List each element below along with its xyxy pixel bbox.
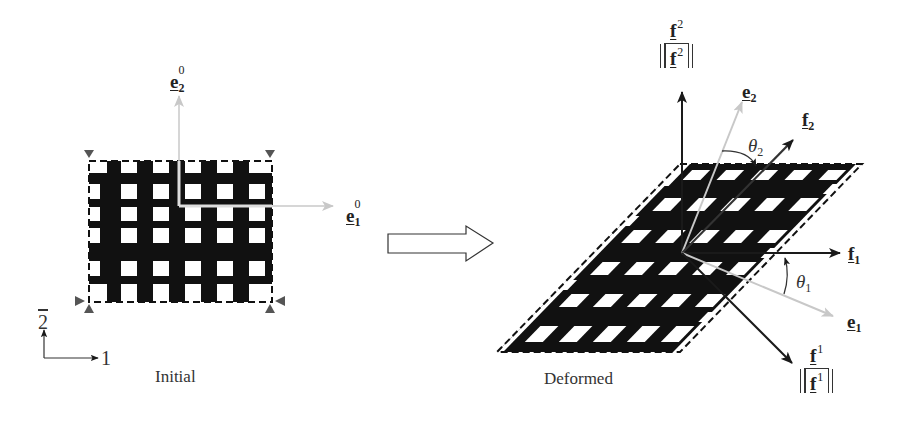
deformation-diagram bbox=[0, 0, 901, 429]
axis-label-1: 1 bbox=[101, 348, 111, 368]
deformed-grid bbox=[497, 164, 864, 352]
label-f-sup1-normalized: f1 f1 bbox=[800, 343, 833, 393]
label-e1-0: e10 bbox=[346, 198, 360, 228]
initial-panel bbox=[44, 96, 333, 358]
label-e2-0: e20 bbox=[170, 64, 184, 94]
label-e1: e1 bbox=[847, 312, 861, 334]
label-e2: e2 bbox=[742, 82, 756, 104]
label-f-sup2-normalized: f2 f2 bbox=[660, 18, 693, 68]
caption-deformed: Deformed bbox=[544, 370, 613, 387]
hollow-right-arrow-icon bbox=[388, 226, 493, 261]
label-f2: f2 bbox=[802, 110, 814, 132]
label-theta1: θ1 bbox=[796, 272, 811, 294]
label-theta2: θ2 bbox=[748, 136, 763, 158]
global-axes bbox=[44, 330, 98, 358]
theta1-arc bbox=[784, 258, 787, 294]
caption-initial: Initial bbox=[155, 368, 196, 385]
label-f1: f1 bbox=[848, 244, 860, 266]
axis-label-2: 2 bbox=[38, 312, 48, 332]
